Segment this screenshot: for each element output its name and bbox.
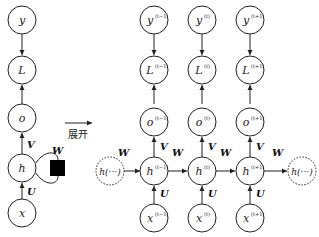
weight-W-3: W xyxy=(272,147,285,158)
sup-h-tp1: (t+1) xyxy=(251,164,264,170)
weight-U-tm1: U xyxy=(160,188,170,199)
label-L-tp1: L xyxy=(241,64,249,77)
sup-y-tm1: (t−1) xyxy=(155,13,168,19)
node-h-start-label: h(···) xyxy=(99,167,121,177)
timestep-t: y (t) L (t) o (t) V h (t) U x (t) xyxy=(188,6,218,232)
weight-V-t: V xyxy=(208,141,217,152)
label-L-tm1: L xyxy=(145,64,153,77)
node-y-tp1 xyxy=(236,6,264,34)
node-o-tp1 xyxy=(236,108,264,136)
node-L-tm1 xyxy=(140,56,168,84)
weight-V-tp1: V xyxy=(256,141,265,152)
label-x-tm1: x xyxy=(147,212,154,225)
rnn-diagram: y L o V h W U x 展开 h(···) W y ( xyxy=(0,0,319,237)
weight-V-tm1: V xyxy=(160,141,169,152)
node-L-tp1 xyxy=(236,56,264,84)
label-y-tp1: y xyxy=(242,14,250,27)
label-y-t: y xyxy=(195,14,203,27)
delay-block xyxy=(50,160,65,176)
weight-W-2: W xyxy=(220,147,233,158)
node-y-label: y xyxy=(18,14,26,27)
sup-o-tp1: (t+1) xyxy=(251,115,264,121)
folded-graph: y L o V h W U x xyxy=(8,6,65,227)
sup-y-tp1: (t+1) xyxy=(251,13,264,19)
node-x-tm1 xyxy=(140,204,168,232)
sup-L-tp1: (t+1) xyxy=(251,63,264,69)
label-o-tm1: o xyxy=(147,116,154,129)
sup-o-t: (t) xyxy=(204,115,210,121)
sup-h-tm1: (t−1) xyxy=(155,164,168,170)
node-y-tm1 xyxy=(140,6,168,34)
sup-x-tm1: (t−1) xyxy=(155,211,168,217)
weight-U-t: U xyxy=(208,188,218,199)
sup-h-t: (t) xyxy=(204,164,210,170)
node-h-tp1 xyxy=(236,157,264,185)
unfolded-graph: h(···) W y (t−1) L (t−1) o (t−1) V h (t−… xyxy=(96,6,316,232)
weight-U-tp1: U xyxy=(256,188,266,199)
weight-W-1: W xyxy=(172,147,185,158)
label-x-t: x xyxy=(196,212,203,225)
label-y-tm1: y xyxy=(146,14,154,27)
label-o-tp1: o xyxy=(243,116,250,129)
label-h-t: h xyxy=(195,165,202,178)
weight-W: W xyxy=(52,145,65,156)
node-x-tp1 xyxy=(236,204,264,232)
node-o-label: o xyxy=(19,112,26,125)
sup-o-tm1: (t−1) xyxy=(155,115,168,121)
timestep-t-minus-1: y (t−1) L (t−1) o (t−1) V h (t−1) U x (t… xyxy=(140,6,170,232)
node-x-label: x xyxy=(19,207,26,220)
node-h-end-label: h(···) xyxy=(291,167,313,177)
node-L-label: L xyxy=(17,64,25,77)
weight-V: V xyxy=(27,139,36,150)
sup-x-t: (t) xyxy=(204,211,210,217)
label-x-tp1: x xyxy=(243,212,250,225)
node-h-tm1 xyxy=(140,157,168,185)
unfold-label: 展开 xyxy=(68,129,88,140)
node-h-label: h xyxy=(18,162,25,175)
label-h-tm1: h xyxy=(146,165,153,178)
timestep-t-plus-1: y (t+1) L (t+1) o (t+1) V h (t+1) U x (t… xyxy=(236,6,266,232)
weight-U: U xyxy=(27,186,37,197)
sup-y-t: (t) xyxy=(204,13,210,19)
label-o-t: o xyxy=(196,116,203,129)
sup-L-t: (t) xyxy=(204,63,210,69)
node-o-tm1 xyxy=(140,108,168,136)
label-h-tp1: h xyxy=(242,165,249,178)
sup-L-tm1: (t−1) xyxy=(155,63,168,69)
sup-x-tp1: (t+1) xyxy=(251,211,264,217)
label-L-t: L xyxy=(194,64,202,77)
weight-W-0: W xyxy=(118,147,131,158)
